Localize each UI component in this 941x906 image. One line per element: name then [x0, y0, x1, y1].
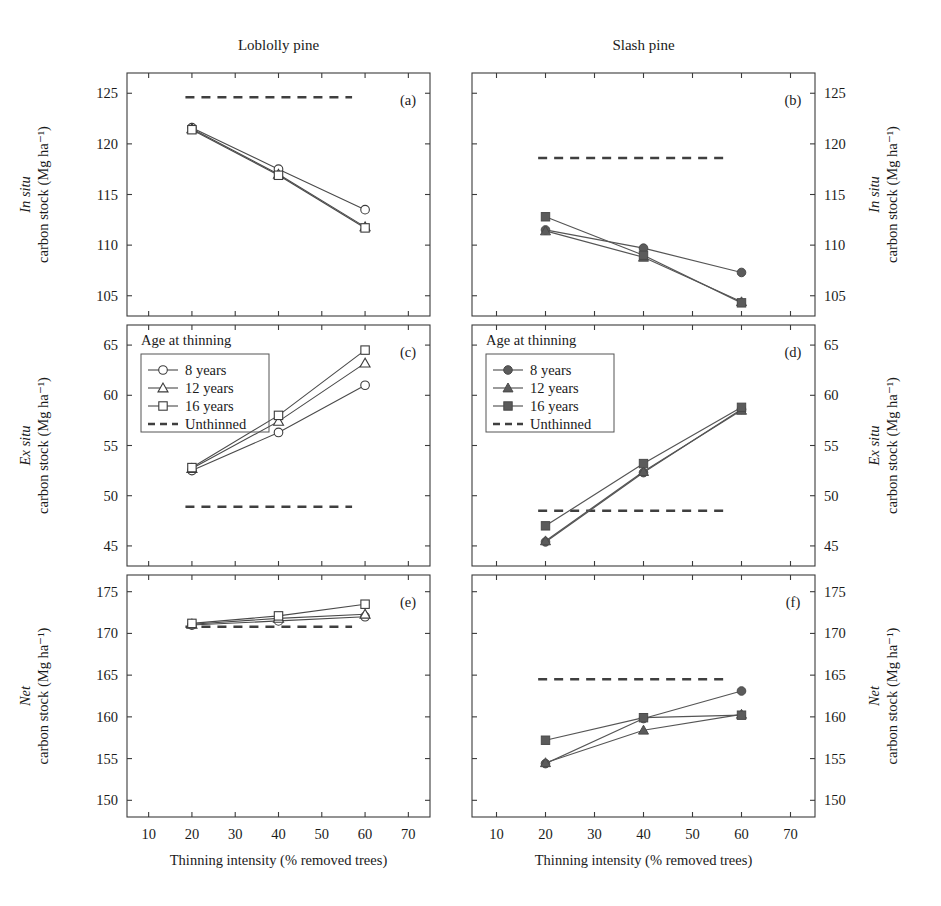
legend-label-1: 12 years	[185, 380, 234, 396]
legend-label-3: Unthinned	[530, 416, 592, 432]
data-point-marker	[737, 687, 746, 696]
data-point-marker	[737, 299, 745, 307]
x-tick-label: 10	[489, 826, 504, 842]
multi-panel-line-chart: Loblolly pineSlash pine105110115120125(a…	[0, 0, 941, 906]
figure-container: Loblolly pineSlash pine105110115120125(a…	[0, 0, 941, 906]
y-tick-label: 55	[824, 438, 839, 454]
panel-letter: (d)	[785, 344, 802, 361]
x-tick-label: 60	[734, 826, 749, 842]
data-point-marker	[737, 268, 746, 277]
panel-letter: (a)	[400, 92, 416, 109]
y-axis-title-rest: carbon stock (Mg ha⁻¹)	[884, 126, 901, 263]
x-tick-label: 50	[315, 826, 330, 842]
y-tick-label: 170	[96, 625, 118, 641]
legend-label-2: 16 years	[530, 398, 579, 414]
y-tick-label: 150	[96, 792, 118, 808]
panel-a: 105110115120125(a)In situcarbon stock (M…	[17, 73, 430, 316]
panel-f: 15015516016517017510203040506070Thinning…	[472, 575, 901, 869]
data-point-marker	[361, 600, 369, 608]
y-tick-label: 170	[824, 625, 846, 641]
y-tick-label: 50	[104, 488, 119, 504]
y-axis-title-rest: carbon stock (Mg ha⁻¹)	[35, 377, 52, 514]
y-tick-label: 175	[96, 584, 118, 600]
legend-label-0: 8 years	[185, 362, 227, 378]
y-tick-label: 105	[96, 288, 118, 304]
panel-d: 4550556065(d)Ex situcarbon stock (Mg ha⁻…	[472, 325, 901, 566]
y-tick-label: 110	[824, 237, 845, 253]
y-tick-label: 65	[824, 337, 839, 353]
data-point-marker	[541, 522, 549, 530]
data-point-marker	[274, 171, 282, 179]
data-point-marker	[274, 612, 282, 620]
panel-frame	[472, 325, 815, 566]
panel-letter: (e)	[400, 594, 416, 611]
data-point-marker	[361, 381, 370, 390]
data-point-marker	[159, 402, 167, 410]
panel-frame	[127, 325, 430, 566]
data-point-marker	[504, 366, 513, 375]
column-title-1: Loblolly pine	[238, 37, 320, 53]
y-tick-label: 150	[824, 792, 846, 808]
y-tick-label: 50	[824, 488, 839, 504]
data-point-marker	[541, 213, 549, 221]
x-tick-label: 40	[271, 826, 286, 842]
x-tick-label: 70	[401, 826, 416, 842]
series-line-12-years	[546, 231, 742, 302]
panel-letter: (c)	[400, 344, 416, 361]
panel-e: 15015516016517017510203040506070Thinning…	[17, 575, 430, 869]
y-axis-title-rest: carbon stock (Mg ha⁻¹)	[884, 377, 901, 514]
panel-letter: (b)	[785, 92, 802, 109]
y-tick-label: 60	[824, 387, 839, 403]
data-point-marker	[360, 358, 370, 367]
data-point-marker	[361, 346, 369, 354]
data-point-marker	[361, 205, 370, 214]
y-tick-label: 45	[104, 538, 119, 554]
x-axis-title: Thinning intensity (% removed trees)	[535, 852, 753, 869]
x-tick-label: 10	[141, 826, 156, 842]
y-tick-label: 65	[104, 337, 119, 353]
data-point-marker	[188, 126, 196, 134]
x-tick-label: 70	[783, 826, 798, 842]
data-point-marker	[159, 366, 168, 375]
y-axis-title-emph: Net	[17, 685, 33, 707]
legend-label-1: 12 years	[530, 380, 579, 396]
y-tick-label: 125	[824, 85, 846, 101]
legend-label-3: Unthinned	[185, 416, 247, 432]
x-tick-label: 60	[358, 826, 373, 842]
data-point-marker	[188, 619, 196, 627]
panel-frame	[472, 73, 815, 316]
panel-frame	[127, 73, 430, 316]
y-tick-label: 105	[824, 288, 846, 304]
data-point-marker	[361, 224, 369, 232]
y-tick-label: 155	[96, 751, 118, 767]
y-axis-title-rest: carbon stock (Mg ha⁻¹)	[35, 126, 52, 263]
panel-letter: (f)	[786, 594, 801, 611]
y-axis-title-emph: Ex situ	[866, 426, 882, 467]
y-tick-label: 110	[97, 237, 118, 253]
data-point-marker	[639, 459, 647, 467]
y-axis-title-rest: carbon stock (Mg ha⁻¹)	[884, 627, 901, 764]
y-tick-label: 115	[824, 187, 845, 203]
y-tick-label: 120	[96, 136, 118, 152]
y-tick-label: 115	[97, 187, 118, 203]
data-point-marker	[737, 403, 745, 411]
y-axis-title-emph: Net	[866, 685, 882, 707]
y-tick-label: 45	[824, 538, 839, 554]
y-tick-label: 155	[824, 751, 846, 767]
y-tick-label: 160	[824, 709, 846, 725]
x-tick-label: 20	[538, 826, 553, 842]
legend-label-2: 16 years	[185, 398, 234, 414]
data-point-marker	[639, 713, 647, 721]
panel-b: 105110115120125(b)In situcarbon stock (M…	[472, 73, 901, 316]
legend-title: Age at thinning	[141, 332, 231, 348]
y-tick-label: 165	[824, 667, 846, 683]
y-tick-label: 60	[104, 387, 119, 403]
y-tick-label: 165	[96, 667, 118, 683]
legend-label-0: 8 years	[530, 362, 572, 378]
x-tick-label: 20	[185, 826, 200, 842]
data-point-marker	[274, 428, 283, 437]
data-point-marker	[504, 402, 512, 410]
x-tick-label: 40	[636, 826, 651, 842]
y-axis-title-emph: Ex situ	[17, 426, 33, 467]
data-point-marker	[541, 736, 549, 744]
